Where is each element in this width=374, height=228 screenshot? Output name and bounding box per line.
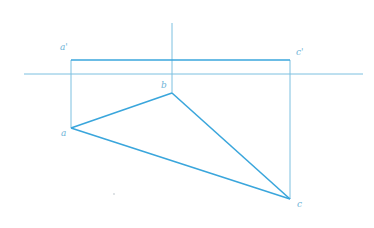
label-b: b [161, 80, 167, 90]
label-c: c [297, 199, 302, 209]
projection-diagram: a' c' b a c [0, 0, 374, 228]
label-a: a [61, 128, 66, 138]
edge-a-b [71, 93, 172, 128]
label-c-prime: c' [296, 47, 304, 57]
label-a-prime: a' [60, 42, 68, 52]
edge-b-c [172, 93, 290, 199]
stray-dot [113, 193, 115, 195]
edge-a-c [71, 128, 290, 199]
